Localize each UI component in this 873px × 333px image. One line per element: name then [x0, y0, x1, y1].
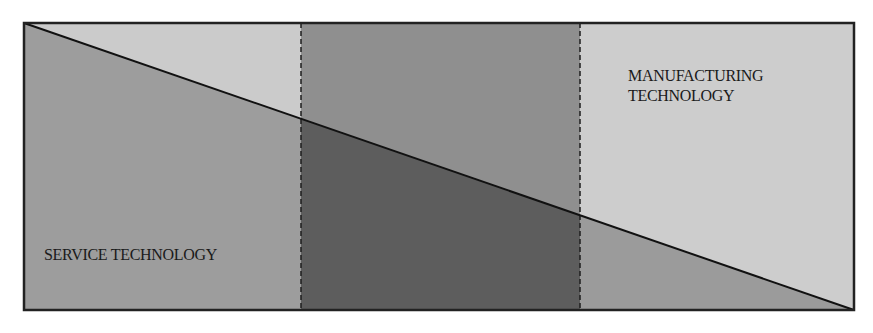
technology-continuum-diagram — [0, 0, 873, 333]
service-technology-label: SERVICE TECHNOLOGY — [44, 245, 217, 265]
manufacturing-label-line-1: MANUFACTURING — [628, 66, 763, 86]
manufacturing-label-line-2: TECHNOLOGY — [628, 86, 763, 106]
manufacturing-technology-label: MANUFACTURING TECHNOLOGY — [628, 66, 763, 106]
